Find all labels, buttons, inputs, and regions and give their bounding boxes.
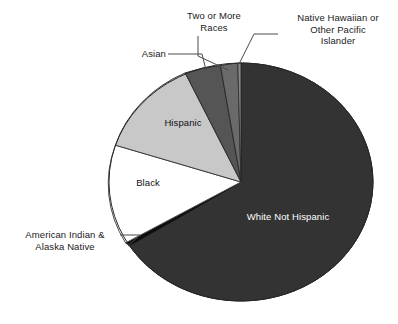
leader-line-native-hawaiian [239,34,278,64]
slice-label-asian: Asian [108,48,166,60]
slice-label-two-or-more-races: Two or More Races [168,10,260,33]
pie-chart-canvas [0,0,398,324]
slice-label-native-hawaiian: Native Hawaiian or Other Pacific Islande… [282,12,394,47]
leader-line-asian [168,54,206,70]
pie-chart: Two or More Races Native Hawaiian or Oth… [0,0,398,324]
slice-label-hispanic: Hispanic [154,117,212,129]
slice-label-white-not-hispanic: White Not Hispanic [230,211,346,223]
slice-label-american-indian-alaska-native: American Indian & Alaska Native [4,229,126,252]
slice-label-black: Black [125,177,171,189]
